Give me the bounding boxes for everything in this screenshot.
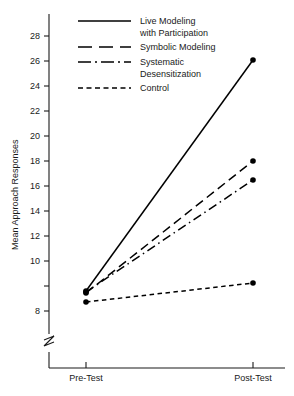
y-tick-label-28: 28 bbox=[30, 31, 40, 41]
data-point-control-pre bbox=[83, 299, 89, 305]
legend-label-control: Control bbox=[140, 83, 169, 93]
y-tick-label-18: 18 bbox=[30, 156, 40, 166]
x-tick-marks bbox=[86, 362, 253, 368]
legend-label-systematic-desensitization-line1: Systematic bbox=[140, 57, 185, 67]
legend-label-live-modeling-line1: Live Modeling bbox=[140, 16, 196, 26]
series-line-live-modeling bbox=[86, 60, 253, 291]
chart-container: 28 26 24 22 20 18 16 14 12 10 8 Mean App… bbox=[0, 0, 294, 396]
legend-label-systematic-desensitization-line2: Desensitization bbox=[140, 69, 201, 79]
series-line-control bbox=[86, 283, 253, 302]
y-tick-label-24: 24 bbox=[30, 81, 40, 91]
y-tick-marks bbox=[44, 36, 49, 311]
data-point-live-modeling-post bbox=[250, 57, 256, 63]
x-tick-label-post-test: Post-Test bbox=[234, 373, 272, 383]
legend-label-live-modeling-line2: with Participation bbox=[139, 28, 208, 38]
y-tick-label-10: 10 bbox=[30, 256, 40, 266]
series-line-symbolic-modeling bbox=[86, 161, 253, 293]
y-tick-label-20: 20 bbox=[30, 131, 40, 141]
y-axis-title: Mean Approach Responses bbox=[10, 139, 20, 250]
y-axis-break-icon bbox=[44, 336, 54, 346]
data-point-systematic-desensitization-post bbox=[250, 177, 256, 183]
y-tick-label-8: 8 bbox=[35, 306, 40, 316]
legend-label-symbolic-modeling: Symbolic Modeling bbox=[140, 42, 216, 52]
y-tick-label-14: 14 bbox=[30, 206, 40, 216]
y-tick-label-16: 16 bbox=[30, 181, 40, 191]
y-tick-label-22: 22 bbox=[30, 106, 40, 116]
series-line-systematic-desensitization bbox=[86, 180, 253, 292]
legend: Live Modeling with Participation Symboli… bbox=[78, 16, 216, 93]
data-point-systematic-desensitization-pre bbox=[83, 289, 89, 295]
data-point-control-post bbox=[250, 280, 256, 286]
y-tick-label-12: 12 bbox=[30, 231, 40, 241]
data-point-symbolic-modeling-post bbox=[250, 158, 256, 164]
x-tick-label-pre-test: Pre-Test bbox=[69, 373, 103, 383]
y-tick-label-26: 26 bbox=[30, 56, 40, 66]
line-chart: 28 26 24 22 20 18 16 14 12 10 8 Mean App… bbox=[0, 0, 294, 396]
